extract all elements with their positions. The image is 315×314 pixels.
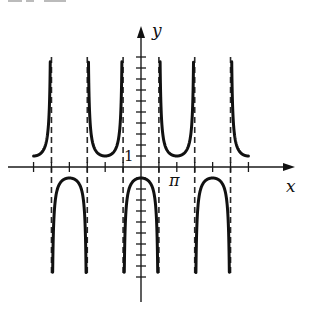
secant-branch xyxy=(88,62,121,156)
x-axis-label: x xyxy=(286,176,296,196)
x-axis-arrow-icon xyxy=(283,163,295,171)
secant-branch xyxy=(160,62,193,156)
secant-branch xyxy=(196,178,229,273)
clipped-header-fragment xyxy=(8,0,66,2)
y-axis-arrow-icon xyxy=(137,26,145,38)
secant-graph: y x π 1 xyxy=(0,0,315,314)
secant-branch xyxy=(34,62,51,156)
one-tick-label: 1 xyxy=(124,147,134,165)
secant-branch xyxy=(53,178,86,273)
y-axis-label: y xyxy=(151,20,162,40)
secant-branch xyxy=(232,62,249,156)
pi-tick-label: π xyxy=(168,171,180,190)
